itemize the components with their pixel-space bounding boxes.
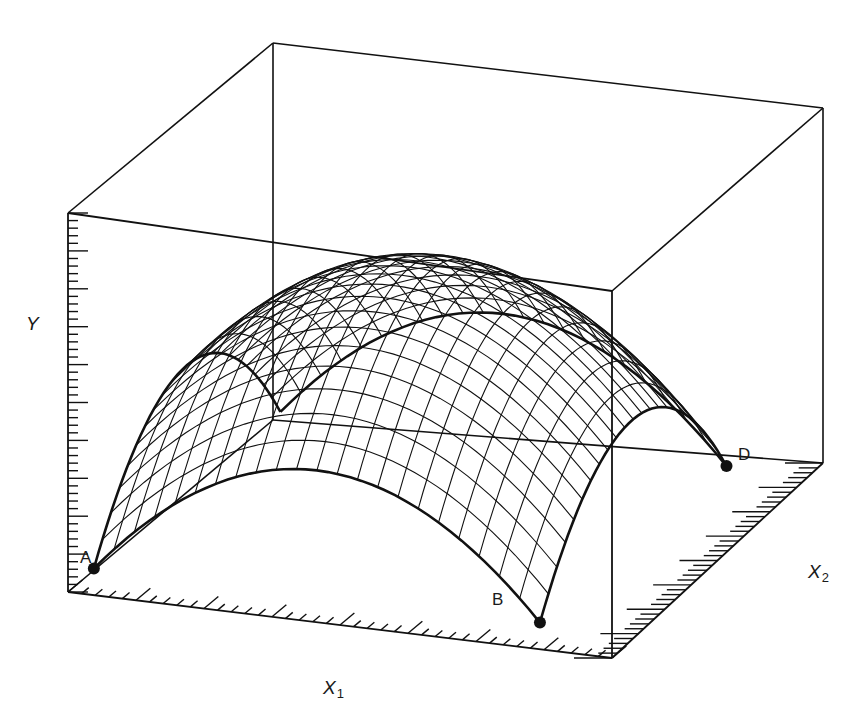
point-b-marker bbox=[534, 617, 546, 629]
x1-axis-label: X1 bbox=[323, 678, 344, 700]
response-surface-figure bbox=[0, 0, 858, 728]
point-label-b: B bbox=[492, 591, 503, 608]
bounding-box-back-edges bbox=[68, 43, 823, 592]
x2-axis-label: X2 bbox=[808, 562, 829, 584]
corner-points bbox=[88, 460, 733, 629]
wireframe-surface bbox=[94, 254, 727, 623]
y-axis-label: Y bbox=[26, 314, 39, 333]
point-label-a: A bbox=[80, 549, 91, 566]
point-d-marker bbox=[720, 460, 732, 472]
point-label-d: D bbox=[738, 446, 750, 463]
